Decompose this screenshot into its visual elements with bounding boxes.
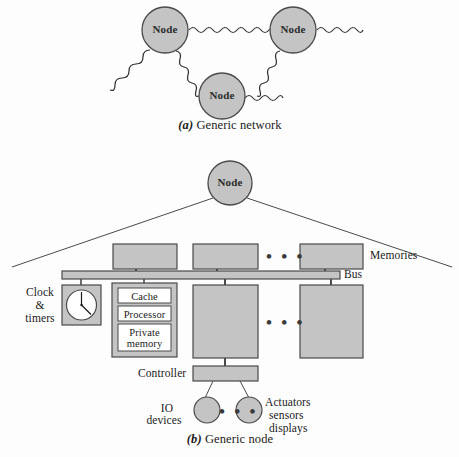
wavy-stub-bottom (245, 96, 283, 101)
wavy-stub-right (317, 28, 363, 33)
private-memory-label: Private memory (118, 327, 171, 349)
io-devices-label-line-2: devices (137, 414, 191, 426)
processor-label: Processor (118, 309, 171, 320)
panel-a-caption-marker: (a) (178, 118, 193, 132)
clock-and-timers-group[interactable] (62, 285, 101, 325)
wavy-stub-left (110, 50, 150, 90)
bus-bar[interactable] (62, 271, 340, 279)
module-block-1[interactable] (193, 285, 258, 358)
clock-label-line-2: & (20, 299, 60, 311)
io-ellipsis: • • • (219, 402, 258, 422)
memories-ellipsis: • • • (266, 247, 305, 267)
panel-a-caption-text: Generic network (193, 118, 281, 132)
clock-label-line-3: timers (20, 312, 60, 324)
cache-label: Cache (118, 291, 171, 302)
diagram-canvas (0, 0, 459, 457)
io-device-circle-1[interactable] (194, 397, 220, 423)
panel-b-caption-marker: (b) (187, 432, 202, 446)
modules-ellipsis: • • • (266, 313, 305, 333)
bus-label: Bus (344, 268, 362, 280)
controller-box[interactable] (193, 366, 258, 381)
clock-label-line-1: Clock (20, 286, 60, 298)
network-node-left-label: Node (145, 24, 185, 36)
module-block-2[interactable] (300, 285, 363, 358)
clock-center-dot-icon (80, 304, 82, 306)
controller-label: Controller (138, 367, 186, 379)
panel-a-caption: (a) Generic network (150, 119, 310, 132)
actuators-label-line-1: Actuators (265, 396, 311, 408)
memory-box-2[interactable] (193, 244, 258, 269)
figure-root: Node Node Node (a) Generic network Node … (0, 0, 459, 457)
network-node-bottom-label: Node (202, 90, 242, 102)
actuators-label-line-2: sensors (269, 409, 304, 421)
generic-node-label: Node (210, 177, 250, 189)
wavy-link-left-bottom (176, 51, 199, 96)
io-devices-label-line-1: IO (143, 402, 191, 414)
memories-label: Memories (370, 249, 417, 261)
memory-box-3[interactable] (300, 244, 363, 269)
panel-b-caption-text: Generic node (202, 432, 273, 446)
wavy-link-right-bottom (257, 51, 280, 96)
io-leg-left (205, 381, 213, 398)
panel-b-caption: (b) Generic node (155, 433, 305, 446)
io-leg-right (240, 381, 249, 398)
memory-boxes (113, 244, 363, 269)
network-node-right-label: Node (273, 24, 313, 36)
memory-box-1[interactable] (113, 244, 177, 269)
